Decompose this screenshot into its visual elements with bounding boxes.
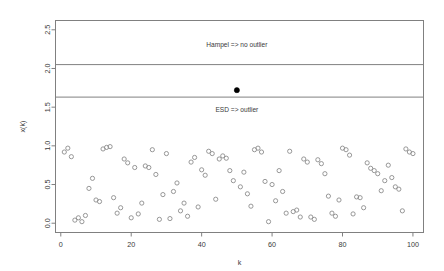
y-tick-label: 1.5 (43, 102, 52, 112)
data-point (270, 182, 274, 186)
data-point (83, 213, 87, 217)
data-point (150, 148, 154, 152)
data-point (274, 199, 278, 203)
data-point (115, 211, 119, 215)
data-point (372, 169, 376, 173)
data-point (175, 181, 179, 185)
data-point (200, 168, 204, 172)
data-point (228, 169, 232, 173)
data-point (69, 155, 73, 159)
data-point (122, 157, 126, 161)
annotations-group: Hampel => no outlierESD => outlier (206, 41, 268, 113)
esd-annotation: ESD => outlier (215, 106, 259, 113)
data-point (80, 220, 84, 224)
data-point (319, 162, 323, 166)
data-point (330, 211, 334, 215)
plot-border (56, 21, 424, 233)
data-point (397, 187, 401, 191)
threshold-lines-group (56, 65, 424, 97)
data-point (277, 169, 281, 173)
data-point (298, 215, 302, 219)
data-point (62, 150, 66, 154)
data-point (119, 206, 123, 210)
data-point (161, 192, 165, 196)
y-tick-label: 0.5 (43, 180, 52, 190)
data-point (386, 163, 390, 167)
outlier-point (234, 88, 239, 93)
data-point (90, 176, 94, 180)
data-point (245, 192, 249, 196)
y-tick-label: 2.5 (43, 25, 52, 35)
x-axis-title: k (238, 258, 242, 267)
data-point (312, 217, 316, 221)
x-tick-label: 40 (198, 240, 206, 249)
data-point (347, 153, 351, 157)
data-point (288, 149, 292, 153)
data-point (154, 172, 158, 176)
data-point (337, 198, 341, 202)
data-point (242, 170, 246, 174)
data-point (326, 194, 330, 198)
data-point (178, 209, 182, 213)
data-point (362, 206, 366, 210)
data-point (157, 217, 161, 221)
chart-canvas: 0204060801000.00.51.01.52.02.5 Hampel =>… (0, 0, 444, 271)
y-tick-label: 0.0 (43, 218, 52, 228)
x-tick-label: 100 (407, 240, 419, 249)
data-point (136, 212, 140, 216)
data-point (404, 147, 408, 151)
data-point (281, 189, 285, 193)
data-point (256, 146, 260, 150)
data-point (147, 165, 151, 169)
data-point (295, 208, 299, 212)
data-point (217, 157, 221, 161)
y-axis-title: x(k) (18, 121, 27, 133)
data-point (383, 179, 387, 183)
x-tick-label: 60 (268, 240, 276, 249)
data-point (87, 186, 91, 190)
data-point (189, 160, 193, 164)
data-point (376, 172, 380, 176)
data-point (129, 216, 133, 220)
axis-ticks-group: 0204060801000.00.51.01.52.02.5 (43, 25, 419, 249)
x-tick-label: 0 (59, 240, 63, 249)
data-point (249, 204, 253, 208)
data-point (185, 214, 189, 218)
data-point (390, 175, 394, 179)
data-point (140, 201, 144, 205)
data-point (97, 199, 101, 203)
data-point (210, 151, 214, 155)
data-point (263, 179, 267, 183)
data-point (168, 216, 172, 220)
data-point (284, 211, 288, 215)
hampel-annotation: Hampel => no outlier (206, 41, 268, 49)
data-point (203, 173, 207, 177)
data-point (171, 189, 175, 193)
data-point (182, 201, 186, 205)
data-point (323, 172, 327, 176)
data-point (224, 156, 228, 160)
data-point (133, 165, 137, 169)
data-point (259, 150, 263, 154)
data-point (316, 158, 320, 162)
data-point (164, 151, 168, 155)
data-point (231, 179, 235, 183)
data-point (411, 151, 415, 155)
data-point (238, 185, 242, 189)
y-tick-label: 1.0 (43, 141, 52, 151)
data-point (112, 196, 116, 200)
data-point (333, 214, 337, 218)
data-point (193, 155, 197, 159)
data-point (365, 161, 369, 165)
data-point (351, 212, 355, 216)
data-point (400, 209, 404, 213)
scatter-plot-figure: 0204060801000.00.51.01.52.02.5 Hampel =>… (0, 0, 444, 271)
y-tick-label: 2.0 (43, 63, 52, 73)
data-point (76, 216, 80, 220)
data-point (126, 161, 130, 165)
data-point (196, 205, 200, 209)
data-point (266, 220, 270, 224)
data-point (214, 197, 218, 201)
data-point (344, 148, 348, 152)
x-tick-label: 80 (339, 240, 347, 249)
